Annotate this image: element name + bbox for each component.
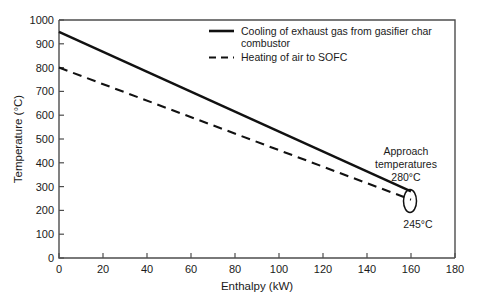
legend-label-heating-line1: Heating of air to SOFC xyxy=(241,51,348,63)
chart-figure: 1000 900 800 700 600 500 400 300 200 100… xyxy=(0,0,481,308)
x-tick-label: 20 xyxy=(97,263,109,275)
x-tick-label: 140 xyxy=(358,263,376,275)
x-tick-label: 40 xyxy=(141,263,153,275)
legend-label-cooling-line2: combustor xyxy=(241,37,291,49)
y-tick-label: 1000 xyxy=(30,14,54,26)
x-tick-label: 0 xyxy=(56,263,62,275)
y-tick-label: 900 xyxy=(36,38,54,50)
x-axis-title: Enthalpy (kW) xyxy=(221,280,293,292)
y-tick-label: 500 xyxy=(36,133,54,145)
y-tick-label: 200 xyxy=(36,204,54,216)
y-tick-label: 800 xyxy=(36,62,54,74)
annotation-title-line2: temperatures xyxy=(375,158,437,170)
temperature-enthalpy-chart: 1000 900 800 700 600 500 400 300 200 100… xyxy=(0,0,481,308)
y-axis-title: Temperature (°C) xyxy=(12,95,24,183)
x-tick-label: 100 xyxy=(270,263,288,275)
y-tick-label: 300 xyxy=(36,181,54,193)
y-tick-label: 700 xyxy=(36,85,54,97)
x-tick-label: 180 xyxy=(446,263,464,275)
y-tick-label: 0 xyxy=(48,252,54,264)
y-tick-label: 400 xyxy=(36,157,54,169)
y-tick-label: 100 xyxy=(36,228,54,240)
x-tick-label: 60 xyxy=(185,263,197,275)
x-tick-label: 120 xyxy=(314,263,332,275)
x-tick-label: 80 xyxy=(229,263,241,275)
annotation-title-line1: Approach xyxy=(384,145,429,157)
x-tick-label: 160 xyxy=(402,263,420,275)
y-tick-label: 600 xyxy=(36,109,54,121)
annotation-upper-value: 280°C xyxy=(391,171,421,183)
annotation-lower-value: 245°C xyxy=(403,218,433,230)
legend-label-cooling-line1: Cooling of exhaust gas from gasifier cha… xyxy=(241,25,432,37)
